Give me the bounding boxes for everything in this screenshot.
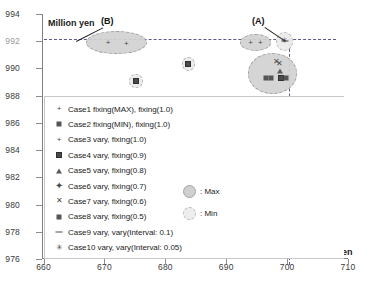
legend-item-label: Case7 vary, fixing(0.6) — [68, 197, 146, 206]
legend-item[interactable]: Case5 vary, fixing(0.8) — [53, 164, 146, 178]
callout-a-label: (A) — [252, 16, 265, 26]
y-tick-label: 990 — [0, 63, 20, 73]
y-tick-label: 980 — [0, 200, 20, 210]
y-tick-label: 982 — [0, 172, 20, 182]
data-point-marker — [185, 61, 191, 67]
data-point-marker — [133, 78, 139, 84]
legend-marker-icon: ✕ — [53, 195, 65, 207]
y-tick-mark — [36, 96, 42, 97]
y-tick-mark — [36, 205, 42, 206]
cluster-ellipse-max — [240, 34, 272, 51]
data-point-marker — [283, 75, 288, 80]
legend-marker-icon: + — [53, 103, 65, 115]
legend-item-label: Case4 vary, fixing(0.9) — [68, 151, 146, 160]
min-swatch-icon — [183, 207, 196, 220]
y-axis-caption: Million yen — [48, 18, 95, 28]
legend-marker-icon: + — [53, 134, 65, 146]
data-point-marker: + — [248, 39, 253, 47]
data-point-marker: ✕ — [276, 60, 283, 68]
legend-item-label: Case1 fixing(MAX), fixing(1.0) — [68, 105, 173, 114]
x-tick-mark — [44, 259, 45, 264]
legend-item-label: Case3 vary, fixing(1.0) — [68, 135, 146, 144]
y-tick-label: 988 — [0, 91, 20, 101]
legend-marker-icon — [53, 149, 65, 161]
x-tick-mark — [348, 259, 349, 264]
legend-item-label: Case10 vary, vary(Interval: 0.05) — [68, 243, 182, 252]
legend-marker-icon — [53, 226, 65, 238]
y-tick-mark — [36, 41, 42, 42]
max-swatch-icon — [183, 185, 196, 198]
legend-marker-icon — [53, 118, 65, 130]
legend-key-min: : Min — [183, 207, 217, 220]
legend-key-label: : Max — [200, 187, 220, 196]
cluster-ellipse-max — [86, 31, 147, 54]
legend-item[interactable]: ✳Case10 vary, vary(Interval: 0.05) — [53, 241, 182, 255]
x-tick-mark — [104, 259, 105, 264]
y-tick-mark — [36, 177, 42, 178]
x-tick-mark — [165, 259, 166, 264]
legend-item-label: Case8 vary, fixing(0.5) — [68, 212, 146, 221]
callout-b-label: (B) — [101, 16, 114, 26]
legend-marker-icon — [53, 211, 65, 223]
legend-key-max: : Max — [183, 185, 220, 198]
y-tick-label: 986 — [0, 118, 20, 128]
legend-marker-icon: ✳ — [53, 242, 65, 254]
legend-key-label: : Min — [200, 209, 217, 218]
legend: +Case1 fixing(MAX), fixing(1.0)Case2 fix… — [44, 96, 344, 259]
legend-item[interactable]: ✦Case6 vary, fixing(0.7) — [53, 179, 146, 193]
legend-item[interactable]: Case4 vary, fixing(0.9) — [53, 148, 146, 162]
data-point-marker — [269, 75, 274, 80]
data-point-marker — [277, 69, 283, 74]
data-point-marker: + — [258, 39, 263, 47]
x-tick-mark — [226, 259, 227, 264]
legend-marker-icon: ✦ — [53, 180, 65, 192]
legend-item-label: Case9 vary, vary(Interval: 0.1) — [68, 228, 173, 237]
y-tick-mark — [36, 150, 42, 151]
y-tick-mark — [36, 123, 42, 124]
y-tick-mark — [36, 14, 42, 15]
legend-item[interactable]: ✕Case7 vary, fixing(0.6) — [53, 194, 146, 208]
y-tick-mark — [36, 232, 42, 233]
legend-item-label: Case2 fixing(MIN), fixing(1.0) — [68, 120, 170, 129]
legend-item[interactable]: Case2 fixing(MIN), fixing(1.0) — [53, 117, 170, 131]
legend-item[interactable]: +Case3 vary, fixing(1.0) — [53, 133, 146, 147]
legend-item[interactable]: Case9 vary, vary(Interval: 0.1) — [53, 225, 173, 239]
legend-item-label: Case6 vary, fixing(0.7) — [68, 182, 146, 191]
y-tick-mark — [36, 68, 42, 69]
legend-item[interactable]: Case8 vary, fixing(0.5) — [53, 210, 146, 224]
y-tick-label: 978 — [0, 227, 20, 237]
y-tick-label: 992 — [0, 36, 20, 46]
y-tick-label: 994 — [0, 9, 20, 19]
data-point-marker: + — [106, 39, 111, 47]
legend-item-label: Case5 vary, fixing(0.8) — [68, 166, 146, 175]
y-tick-label: 976 — [0, 254, 20, 264]
y-tick-label: 984 — [0, 145, 20, 155]
scatter-chart: 994992990988986984982980978976 660670680… — [0, 0, 369, 294]
data-point-marker: + — [124, 40, 129, 48]
legend-item[interactable]: +Case1 fixing(MAX), fixing(1.0) — [53, 102, 173, 116]
legend-marker-icon — [53, 165, 65, 177]
y-tick-mark — [36, 259, 42, 260]
